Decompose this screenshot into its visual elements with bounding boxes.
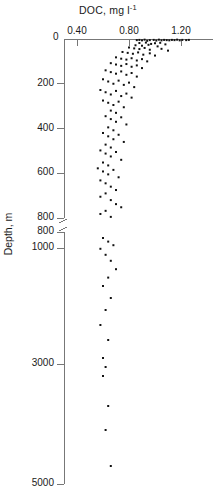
- data-point: [110, 155, 112, 157]
- data-point: [102, 162, 104, 164]
- data-point: [128, 47, 130, 49]
- data-point: [99, 179, 101, 181]
- data-point: [115, 121, 117, 123]
- data-point: [112, 138, 114, 140]
- data-point: [102, 78, 104, 80]
- data-point: [141, 67, 143, 69]
- data-point: [105, 192, 107, 194]
- data-point: [120, 58, 122, 60]
- y-tick-label: 1000: [6, 241, 54, 252]
- data-point: [146, 40, 148, 42]
- data-point: [112, 83, 114, 85]
- data-point: [110, 216, 112, 218]
- data-point: [136, 39, 138, 41]
- data-point: [168, 39, 170, 41]
- data-point: [115, 56, 117, 58]
- data-point: [107, 102, 109, 104]
- data-point: [174, 39, 176, 41]
- data-point: [99, 149, 101, 151]
- data-point: [118, 134, 120, 136]
- data-point: [115, 90, 117, 92]
- data-point: [149, 49, 151, 51]
- data-point: [141, 39, 143, 41]
- data-point: [99, 248, 101, 250]
- data-point: [110, 199, 112, 201]
- data-point: [125, 123, 127, 125]
- data-point: [150, 43, 152, 45]
- data-point: [99, 324, 101, 326]
- data-point: [154, 55, 156, 57]
- data-point: [105, 69, 107, 71]
- data-point: [102, 357, 104, 359]
- x-tick-label: 0.80: [109, 25, 149, 36]
- data-point: [127, 52, 129, 54]
- data-point: [120, 70, 122, 72]
- data-point: [176, 39, 178, 41]
- y-tick-label: 800: [6, 211, 54, 222]
- data-point: [112, 129, 114, 131]
- data-point: [120, 95, 122, 97]
- data-point: [131, 72, 133, 74]
- data-point: [102, 375, 104, 377]
- data-point: [141, 45, 143, 47]
- data-point: [149, 52, 151, 54]
- data-point: [105, 115, 107, 117]
- data-point: [135, 44, 137, 46]
- x-tick-label: 0.40: [57, 25, 97, 36]
- data-point: [118, 101, 120, 103]
- data-point: [133, 47, 135, 49]
- data-point: [132, 53, 134, 55]
- doc-depth-profile-figure: DOC, mg l-1 Depth, m 0 0.400.801.2020040…: [0, 0, 216, 500]
- data-point: [141, 58, 143, 60]
- data-point: [144, 39, 146, 41]
- y-tick-label: 200: [6, 77, 54, 88]
- data-point: [154, 42, 156, 44]
- y-axis-break-marks: [59, 219, 67, 231]
- data-point: [131, 57, 133, 59]
- data-point: [112, 244, 114, 246]
- data-point: [115, 268, 117, 270]
- data-point: [107, 173, 109, 175]
- data-point: [107, 81, 109, 83]
- data-point: [105, 153, 107, 155]
- y-tick-label: 3000: [6, 357, 54, 368]
- data-point: [131, 97, 133, 99]
- data-point: [110, 62, 112, 64]
- data-point: [107, 135, 109, 137]
- data-point: [137, 51, 139, 53]
- data-point: [102, 100, 104, 102]
- data-point: [99, 89, 101, 91]
- data-point: [105, 144, 107, 146]
- data-point: [122, 51, 124, 53]
- data-point: [112, 169, 114, 171]
- data-point: [144, 47, 146, 49]
- data-point: [166, 39, 168, 41]
- data-point: [115, 203, 117, 205]
- data-point: [125, 93, 127, 95]
- data-point: [185, 39, 187, 41]
- data-point: [136, 59, 138, 61]
- data-point: [123, 106, 125, 108]
- data-point: [115, 64, 117, 66]
- data-point: [171, 39, 173, 41]
- data-point: [110, 118, 112, 120]
- data-point: [102, 285, 104, 287]
- data-point: [125, 74, 127, 76]
- data-point: [110, 93, 112, 95]
- data-point: [163, 39, 165, 41]
- data-point: [112, 104, 114, 106]
- data-point: [120, 65, 122, 67]
- data-point: [107, 126, 109, 128]
- data-point: [131, 66, 133, 68]
- data-point: [99, 213, 101, 215]
- data-point: [133, 86, 135, 88]
- data-point: [149, 39, 151, 41]
- data-point: [146, 60, 148, 62]
- data-point: [136, 76, 138, 78]
- data-point: [110, 110, 112, 112]
- data-point: [158, 39, 160, 41]
- data-point: [120, 159, 122, 161]
- data-point: [155, 40, 157, 42]
- data-point: [115, 151, 117, 153]
- data-point: [148, 44, 150, 46]
